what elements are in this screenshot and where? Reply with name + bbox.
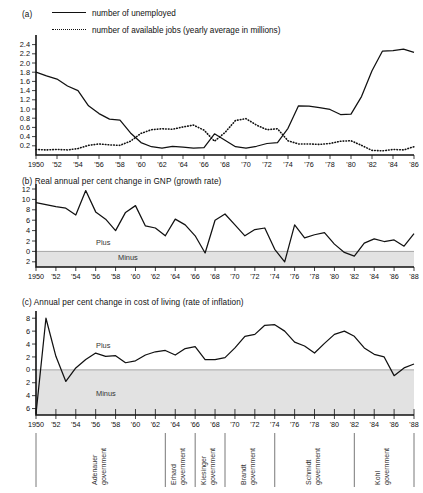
y-tick-label: 1.8 [20,68,30,77]
government-label: Schmidt [305,460,312,485]
x-tick-label: '82 [367,160,376,169]
x-tick-label: '54 [71,272,80,281]
y-tick-label: 2 [26,378,30,387]
panel-c-plot: 864202461950'52'54'56'58'60'62'64'66'68'… [0,297,423,493]
x-tick-label: '58 [111,420,120,429]
x-tick-label: '66 [190,272,199,281]
legend-item-unemployed: number of unemployed [52,9,176,18]
x-tick-label: '88 [409,420,418,429]
y-tick-label: 1.4 [20,86,30,95]
government-label: Adenauer [91,454,98,485]
y-tick-label: 8 [26,314,30,323]
x-tick-label: '74 [270,420,279,429]
x-tick-label: '58 [115,160,124,169]
x-tick-label: '68 [210,272,219,281]
x-tick-label: '84 [370,272,379,281]
y-tick-label: 6 [26,216,30,225]
x-tick-label: '74 [270,272,279,281]
axis-a [36,35,414,155]
series-available-jobs [36,119,414,151]
y-tick-label: 2 [26,257,30,266]
x-tick-label: '76 [290,420,299,429]
y-tick-label: 2 [26,237,30,246]
y-tick-label: 0.6 [20,123,30,132]
panel-b: (b) Real annual per cent change in GNP (… [0,175,423,297]
panel-c-title: Annual per cent change in cost of living… [34,298,244,307]
y-tick-label: 6 [26,327,30,336]
minus-label-b: Minus [118,253,138,262]
series-unemployed [36,49,414,148]
x-tick-label: '84 [370,420,379,429]
x-tick-label: '70 [230,272,239,281]
x-tick-label: '70 [241,160,250,169]
government-label: government [179,448,187,485]
x-tick-label: '64 [171,420,180,429]
government-label: Erhard [170,464,177,485]
x-tick-label: '62 [151,420,160,429]
panel-b-title-row: (b) Real annual per cent change in GNP (… [22,177,221,186]
x-tick-label: '80 [346,160,355,169]
chart-figure: (a) number of unemployed number of avail… [0,0,423,493]
x-tick-label: '86 [409,160,418,169]
y-tick-label: 2.0 [20,59,30,68]
y-tick-label: 2.4 [20,40,30,49]
x-tick-label: '68 [220,160,229,169]
x-tick-label: '52 [51,272,60,281]
y-tick-label: 6 [26,404,30,413]
y-tick-label: 2 [26,353,30,362]
x-tick-label: '64 [171,272,180,281]
x-tick-label: '78 [325,160,334,169]
x-tick-label: '78 [310,420,319,429]
minus-band-c [36,370,414,415]
x-tick-label: '80 [330,272,339,281]
x-tick-label: '52 [51,420,60,429]
y-tick-label: 1.0 [20,105,30,114]
x-tick-label: '66 [190,420,199,429]
x-tick-label: '82 [350,420,359,429]
legend-label-available-jobs: number of available jobs (yearly average… [92,26,280,35]
y-tick-label: 0.4 [20,132,30,141]
x-tick-label: '72 [250,420,259,429]
y-tick-label: 4 [26,391,30,400]
x-tick-label: '76 [290,272,299,281]
x-tick-label: '60 [131,420,140,429]
x-tick-label: '76 [304,160,313,169]
x-tick-label: 1950 [28,420,44,429]
government-label: government [249,448,257,485]
x-tick-label: '56 [94,160,103,169]
panel-b-label: (b) [22,177,32,186]
x-tick-label: '74 [283,160,292,169]
y-tick-label: 1.6 [20,77,30,86]
y-tick-label: 4 [26,226,30,235]
x-tick-label: 1950 [28,272,44,281]
government-label: government [100,448,108,485]
x-tick-label: '72 [262,160,271,169]
x-tick-label: '54 [73,160,82,169]
x-tick-label: '70 [230,420,239,429]
panel-c: (c) Annual per cent change in cost of li… [0,297,423,493]
government-label: Kohl [374,471,381,485]
minus-band-b [36,251,414,267]
x-tick-label: '54 [71,420,80,429]
minus-label-c: Minus [96,389,116,398]
panel-b-plot: 12108642021950'52'54'56'58'60'62'64'66'6… [0,175,423,297]
legend-solid-swatch-icon [52,12,86,13]
x-tick-label: '88 [409,272,418,281]
y-tick-label: 0.8 [20,114,30,123]
government-label: Kiesinger [200,455,208,485]
y-tick-label: 8 [26,205,30,214]
panel-c-title-row: (c) Annual per cent change in cost of li… [22,298,244,307]
x-tick-label: '84 [388,160,397,169]
x-tick-label: '82 [350,272,359,281]
x-tick-label: '68 [210,420,219,429]
x-tick-label: '56 [91,420,100,429]
x-tick-label: '64 [178,160,187,169]
x-tick-label: '86 [389,272,398,281]
legend-item-available-jobs: number of available jobs (yearly average… [52,26,280,35]
x-tick-label: 1950 [28,160,44,169]
y-tick-label: 0 [26,365,30,374]
panel-a: (a) number of unemployed number of avail… [0,0,423,175]
legend-dotted-swatch-icon [52,29,86,30]
x-tick-label: '72 [250,272,259,281]
x-tick-label: '86 [389,420,398,429]
